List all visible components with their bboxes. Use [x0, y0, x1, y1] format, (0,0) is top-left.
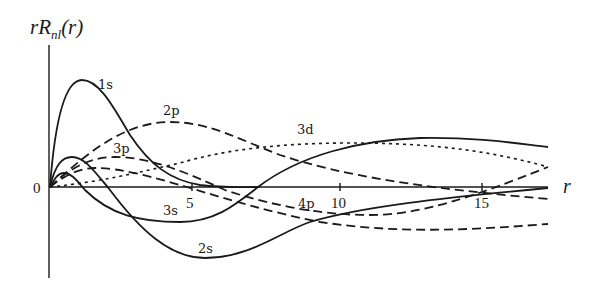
x-axis-label: r: [563, 175, 571, 197]
label-1s: 1s: [98, 77, 113, 92]
origin-label: 0: [33, 180, 41, 196]
label-3p: 3p: [113, 141, 130, 156]
label-4p: 4p: [298, 196, 315, 211]
label-2s: 2s: [198, 241, 213, 256]
label-3d: 3d: [297, 122, 314, 137]
label-3s: 3s: [163, 203, 178, 218]
x-tick-label-5: 5: [186, 195, 194, 211]
x-tick-label-15: 15: [474, 195, 489, 211]
label-2p: 2p: [163, 103, 180, 118]
y-axis-label: rRnl(r): [30, 15, 83, 42]
radial-wavefunction-chart: rRnl(r) 0 5 10 15 r 1s 2p 3p 3d 3s 2s 4p: [0, 0, 593, 298]
x-tick-label-10: 10: [331, 195, 346, 211]
